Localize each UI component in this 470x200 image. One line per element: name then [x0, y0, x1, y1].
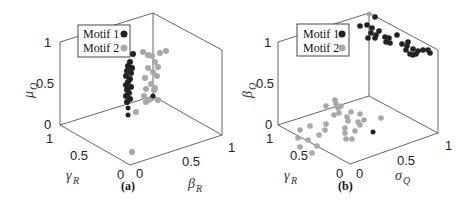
panel-a-legend: Motif 1 Motif 2	[78, 25, 130, 57]
panel-b-motif1-points	[357, 14, 433, 134]
x-tick-0: 0	[136, 166, 143, 181]
x-axis-label: β R	[187, 176, 202, 194]
panel-a: 1 0.5 0 1 0.5 0 0 0.5 1 μ Q γ R β R (a)	[21, 13, 235, 194]
svg-text:Q: Q	[247, 82, 258, 90]
y-tick-0.5: 0.5	[70, 148, 88, 163]
x-tick-1: 1	[445, 138, 452, 153]
x-tick-0: 0	[356, 166, 363, 181]
y-axis-label: γ R	[66, 168, 79, 186]
legend-motif2-label: Motif 2	[303, 41, 339, 55]
svg-text:σ: σ	[395, 168, 403, 183]
z-tick-1: 1	[264, 35, 271, 50]
x-tick-0.5: 0.5	[397, 153, 415, 168]
legend-motif1-marker	[339, 31, 346, 38]
svg-text:β: β	[240, 91, 255, 99]
z-tick-0.5: 0.5	[256, 76, 274, 91]
svg-text:R: R	[195, 183, 202, 194]
z-tick-1: 1	[44, 35, 51, 50]
y-axis-label: γ R	[284, 168, 297, 186]
z-axis-label: μ Q	[21, 82, 39, 99]
panel-a-label: (a)	[121, 179, 135, 193]
legend-motif2-marker	[339, 45, 346, 52]
x-tick-0.5: 0.5	[182, 154, 200, 169]
z-tick-0: 0	[265, 117, 272, 132]
panel-b-label: (b)	[338, 179, 353, 193]
legend-motif2-marker	[121, 45, 128, 52]
y-tick-0.5: 0.5	[290, 148, 308, 163]
svg-text:γ: γ	[284, 168, 290, 183]
svg-text:γ: γ	[66, 168, 72, 183]
panel-b: 1 0.5 0 1 0.5 0 0 0.5 1 β Q γ R σ Q (b)	[240, 12, 452, 194]
svg-text:β: β	[187, 176, 195, 191]
svg-text:R: R	[290, 175, 297, 186]
svg-text:μ: μ	[21, 91, 36, 99]
panel-b-legend: Motif 1 Motif 2	[297, 24, 349, 56]
svg-text:R: R	[72, 175, 79, 186]
legend-motif1-label: Motif 1	[303, 27, 339, 41]
x-axis-label: σ Q	[395, 168, 411, 186]
figure-canvas: 1 0.5 0 1 0.5 0 0 0.5 1 μ Q γ R β R (a)	[0, 0, 470, 200]
y-tick-1: 1	[46, 131, 53, 146]
z-tick-0: 0	[44, 117, 51, 132]
svg-text:Q: Q	[28, 82, 39, 90]
legend-motif1-label: Motif 1	[83, 27, 119, 41]
legend-motif2-label: Motif 2	[83, 41, 119, 55]
y-tick-1: 1	[266, 131, 273, 146]
z-axis-label: β Q	[240, 82, 258, 99]
svg-text:Q: Q	[403, 175, 411, 186]
x-tick-1: 1	[228, 140, 235, 155]
legend-motif1-marker	[121, 31, 128, 38]
